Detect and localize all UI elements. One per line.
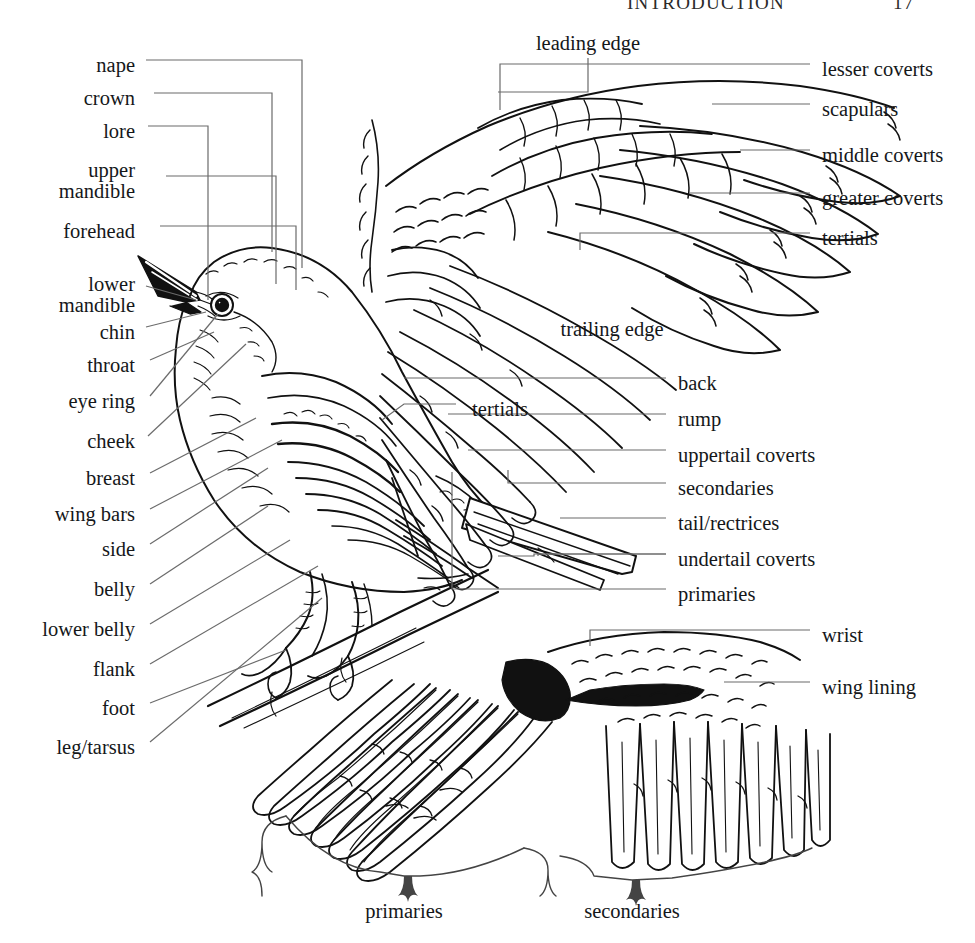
label-eye-ring[interactable]: eye ring — [68, 390, 135, 412]
label-leg-tarsus[interactable]: leg/tarsus — [56, 736, 135, 758]
label-tertials-body[interactable]: tertials — [472, 398, 528, 420]
label-greater-coverts[interactable]: greater coverts — [822, 187, 943, 209]
label-wrist[interactable]: wrist — [822, 624, 863, 646]
label-lower-mandible-line1: lower — [59, 274, 135, 295]
label-lower-mandible[interactable]: lower mandible — [59, 274, 135, 316]
label-secondaries-brace[interactable]: secondaries — [584, 900, 680, 922]
leader-secondaries-body — [508, 470, 666, 483]
label-primaries-body[interactable]: primaries — [678, 583, 755, 605]
label-crown[interactable]: crown — [84, 87, 135, 109]
label-cheek[interactable]: cheek — [87, 430, 135, 452]
leader-lines — [0, 0, 975, 943]
leader-upper-mandible-2 — [166, 176, 278, 276]
leader-tertials-body — [382, 404, 456, 420]
leader-lore — [148, 126, 208, 300]
label-lesser-coverts[interactable]: lesser coverts — [822, 58, 933, 80]
label-upper-mandible[interactable]: upper mandible — [59, 160, 135, 202]
leader-upper-mandible-path — [166, 176, 276, 284]
leader-chin — [146, 312, 206, 327]
leader-undertail-coverts-h — [538, 554, 666, 556]
leader-leg-tarsus — [150, 598, 322, 742]
label-tail-rectrices[interactable]: tail/rectrices — [678, 512, 779, 534]
label-upper-mandible-line1: upper — [59, 160, 135, 181]
label-back[interactable]: back — [678, 372, 717, 394]
label-primaries-brace[interactable]: primaries — [365, 900, 442, 922]
label-forehead[interactable]: forehead — [63, 220, 135, 242]
leader-crown — [154, 93, 272, 252]
feather-group-braces — [252, 816, 812, 906]
under-wing-illustration — [253, 632, 830, 881]
label-rump[interactable]: rump — [678, 408, 721, 430]
label-breast[interactable]: breast — [86, 467, 135, 489]
leader-belly — [150, 506, 268, 584]
label-lower-mandible-line2: mandible — [59, 295, 135, 316]
label-scapulars[interactable]: scapulars — [822, 98, 898, 120]
label-lower-belly[interactable]: lower belly — [42, 618, 135, 640]
leader-eye-ring — [150, 314, 218, 396]
leader-trailing-edge — [512, 292, 556, 318]
leader-lesser-coverts — [500, 64, 810, 110]
leader-lower-mandible — [146, 286, 196, 300]
leader-forehead — [160, 226, 296, 290]
leader-upper-mandible-hidden — [168, 170, 278, 286]
figure-page: INTRODUCTION 17 — [0, 0, 975, 943]
leader-primaries-body — [452, 472, 666, 589]
label-chin[interactable]: chin — [100, 321, 135, 343]
leader-cheek — [148, 344, 246, 436]
label-flank[interactable]: flank — [93, 658, 135, 680]
bird-topography-artwork — [0, 0, 975, 943]
page-number: 17 — [893, 0, 914, 14]
leader-throat — [150, 332, 214, 360]
label-throat[interactable]: throat — [87, 354, 135, 376]
running-head-title: INTRODUCTION — [627, 0, 785, 14]
leader-undertail-coverts — [498, 554, 666, 556]
leader-nape — [146, 60, 302, 268]
leader-flank — [150, 566, 318, 664]
label-uppertail-coverts[interactable]: uppertail coverts — [678, 444, 815, 466]
label-wing-bars[interactable]: wing bars — [55, 503, 135, 525]
label-belly[interactable]: belly — [94, 578, 135, 600]
label-middle-coverts[interactable]: middle coverts — [822, 144, 943, 166]
label-secondaries-body[interactable]: secondaries — [678, 477, 774, 499]
label-nape[interactable]: nape — [96, 54, 135, 76]
label-side[interactable]: side — [102, 538, 135, 560]
upper-wing-illustration — [360, 81, 900, 606]
leader-side — [150, 468, 268, 544]
label-upper-mandible-line2: mandible — [59, 181, 135, 202]
label-lore[interactable]: lore — [103, 120, 135, 142]
label-tertials-wing[interactable]: tertials — [822, 227, 878, 249]
leader-breast — [150, 418, 256, 473]
label-foot[interactable]: foot — [102, 697, 135, 719]
leader-leading-edge — [498, 58, 588, 92]
label-leading-edge[interactable]: leading edge — [536, 32, 640, 54]
leader-lower-belly — [150, 540, 290, 624]
label-undertail-coverts[interactable]: undertail coverts — [678, 548, 815, 570]
label-wing-lining[interactable]: wing lining — [822, 676, 916, 698]
leader-foot — [150, 650, 286, 703]
leader-wrist — [590, 630, 810, 646]
label-trailing-edge[interactable]: trailing edge — [560, 318, 663, 340]
leader-wing-bars — [150, 440, 282, 509]
leader-upper-mandible — [168, 170, 276, 292]
leader-tertials-wing — [580, 233, 810, 250]
